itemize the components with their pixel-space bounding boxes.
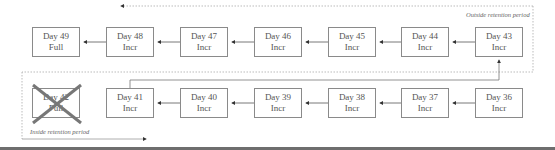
backup-box-day-41: Day 41 Incr — [106, 88, 154, 118]
backup-box-day-42-deleted: Day 42 Full — [32, 88, 80, 118]
backup-type: Incr — [197, 103, 212, 114]
backup-type: Incr — [345, 103, 360, 114]
backup-type: Incr — [197, 42, 212, 53]
backup-type: Full — [49, 42, 64, 53]
backup-day: Day 45 — [339, 31, 365, 42]
backup-day: Day 46 — [265, 31, 291, 42]
deleted-cross-icon — [27, 83, 87, 125]
backup-box-day-47: Day 47 Incr — [180, 27, 228, 57]
backup-box-day-37: Day 37 Incr — [401, 88, 449, 118]
backup-type: Incr — [345, 42, 360, 53]
backup-box-day-45: Day 45 Incr — [328, 27, 376, 57]
outside-retention-label: Outside retention period — [466, 11, 530, 18]
backup-day: Day 49 — [43, 31, 69, 42]
backup-type: Incr — [418, 42, 433, 53]
backup-box-day-44: Day 44 Incr — [401, 27, 449, 57]
backup-box-day-46: Day 46 Incr — [254, 27, 302, 57]
backup-day: Day 47 — [191, 31, 217, 42]
bottom-divider — [0, 147, 555, 150]
backup-day: Day 44 — [412, 31, 438, 42]
backup-day: Day 39 — [265, 92, 291, 103]
backup-box-day-39: Day 39 Incr — [254, 88, 302, 118]
backup-type: Incr — [123, 42, 138, 53]
backup-type: Incr — [418, 103, 433, 114]
backup-box-day-38: Day 38 Incr — [328, 88, 376, 118]
backup-day: Day 37 — [412, 92, 438, 103]
backup-type: Incr — [271, 103, 286, 114]
backup-box-day-43: Day 43 Incr — [475, 27, 523, 57]
backup-day: Day 48 — [117, 31, 143, 42]
inside-retention-label: Inside retention period — [30, 128, 89, 135]
backup-day: Day 40 — [191, 92, 217, 103]
backup-day: Day 41 — [117, 92, 143, 103]
backup-type: Incr — [492, 103, 507, 114]
backup-day: Day 38 — [339, 92, 365, 103]
backup-type: Incr — [492, 42, 507, 53]
backup-box-day-36: Day 36 Incr — [475, 88, 523, 118]
backup-day: Day 43 — [486, 31, 512, 42]
backup-box-day-49: Day 49 Full — [32, 27, 80, 57]
backup-type: Incr — [123, 103, 138, 114]
backup-box-day-48: Day 48 Incr — [106, 27, 154, 57]
backup-type: Incr — [271, 42, 286, 53]
backup-day: Day 36 — [486, 92, 512, 103]
backup-box-day-40: Day 40 Incr — [180, 88, 228, 118]
